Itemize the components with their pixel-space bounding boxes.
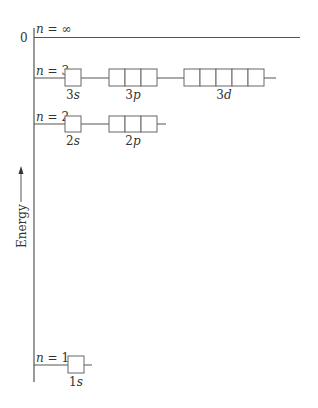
zero-label: 0 [20, 31, 28, 45]
subshell-3s: 3s [65, 69, 81, 102]
level-n-infinity: n = ∞ [34, 22, 300, 38]
level-label-n1: n = 1 [36, 351, 69, 365]
subshell-label-2p: 2p [125, 134, 141, 148]
orbital-box [216, 69, 232, 86]
level-n2: n = 22s2p [34, 110, 166, 148]
level-label-n3: n = 3 [36, 64, 69, 78]
orbital-box [65, 69, 81, 86]
orbital-box [232, 69, 248, 86]
level-n3: n = 33s3p3d [34, 64, 276, 102]
orbital-box [109, 69, 125, 86]
energy-axis-label-group: Energy [15, 166, 29, 248]
orbital-box [68, 356, 84, 373]
subshell-label-2s: 2s [66, 134, 80, 148]
subshell-3d: 3d [184, 69, 264, 102]
orbital-box [141, 69, 157, 86]
level-label-n-infinity: n = ∞ [36, 22, 71, 36]
orbital-box [125, 116, 141, 132]
subshell-label-3s: 3s [66, 88, 80, 102]
subshell-2s: 2s [65, 116, 81, 148]
orbital-box [248, 69, 264, 86]
level-label-n2: n = 2 [36, 110, 69, 124]
subshell-label-1s: 1s [69, 375, 83, 389]
energy-level-diagram: 0 Energy n = ∞ n = 33s3p3d n = 22s2p n =… [0, 0, 318, 408]
orbital-box [184, 69, 200, 86]
energy-arrow-up-icon [19, 166, 24, 174]
orbital-box [125, 69, 141, 86]
subshell-label-3p: 3p [125, 88, 141, 102]
subshell-label-3d: 3d [216, 88, 232, 102]
orbital-box [141, 116, 157, 132]
orbital-box [109, 116, 125, 132]
orbital-box [65, 116, 81, 132]
orbital-box [200, 69, 216, 86]
level-n1: n = 11s [34, 351, 92, 389]
subshell-1s: 1s [68, 356, 84, 389]
subshell-2p: 2p [109, 116, 157, 148]
energy-axis-label: Energy [15, 204, 29, 248]
subshell-3p: 3p [109, 69, 157, 102]
